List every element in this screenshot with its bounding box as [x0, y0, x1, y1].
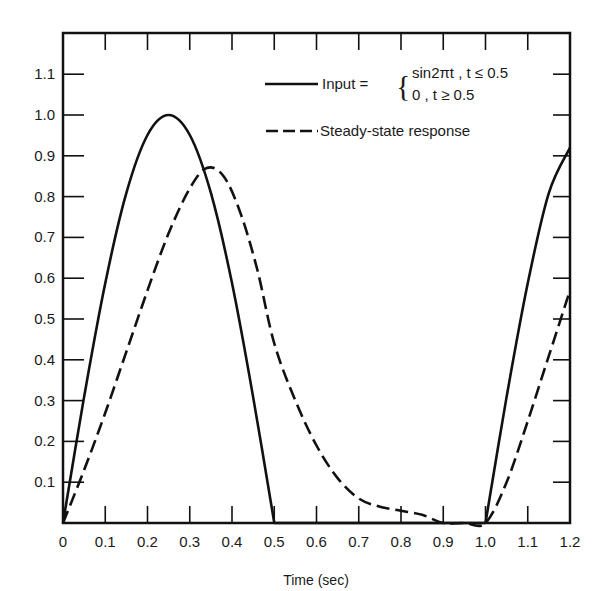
plot-frame: [63, 33, 570, 523]
y-tick-label: 0.1: [34, 473, 55, 490]
y-tick-label: 0.2: [34, 432, 55, 449]
x-tick-label: 0.8: [391, 533, 412, 550]
y-tick-label: 0.9: [34, 147, 55, 164]
x-tick-label: 1.2: [560, 533, 581, 550]
x-tick-label: 0.2: [137, 533, 158, 550]
y-tick-label: 0.6: [34, 269, 55, 286]
ticks: [63, 33, 570, 523]
chart: 00.10.20.30.40.50.60.70.80.91.01.11.20.1…: [0, 0, 607, 591]
y-tick-label: 0.5: [34, 310, 55, 327]
x-axis-label: Time (sec): [283, 572, 349, 588]
x-tick-label: 0.7: [348, 533, 369, 550]
legend-input-case-2: 0 , t ≥ 0.5: [412, 86, 474, 103]
x-tick-label: 0: [59, 533, 67, 550]
series-layer: [63, 115, 570, 526]
legend-input-label: Input =: [322, 75, 369, 92]
y-tick-label: 0.7: [34, 228, 55, 245]
x-tick-label: 0.9: [433, 533, 454, 550]
y-tick-label: 1.1: [34, 65, 55, 82]
legend: Input = { sin2πt , t ≤ 0.5 0 , t ≥ 0.5 S…: [265, 64, 508, 139]
y-tick-label: 0.4: [34, 351, 55, 368]
y-tick-label: 0.8: [34, 188, 55, 205]
x-tick-label: 0.5: [264, 533, 285, 550]
x-tick-label: 0.6: [306, 533, 327, 550]
legend-input-case-1: sin2πt , t ≤ 0.5: [412, 64, 508, 81]
legend-input-brace: {: [396, 69, 410, 102]
y-tick-label: 0.3: [34, 392, 55, 409]
tick-labels: 00.10.20.30.40.50.60.70.80.91.01.11.20.1…: [34, 65, 580, 550]
input-line: [63, 115, 570, 523]
legend-steady-label: Steady-state response: [320, 122, 470, 139]
y-tick-label: 1.0: [34, 106, 55, 123]
x-tick-label: 1.1: [517, 533, 538, 550]
x-tick-label: 1.0: [475, 533, 496, 550]
x-tick-label: 0.3: [179, 533, 200, 550]
x-tick-label: 0.1: [95, 533, 116, 550]
x-tick-label: 0.4: [222, 533, 243, 550]
